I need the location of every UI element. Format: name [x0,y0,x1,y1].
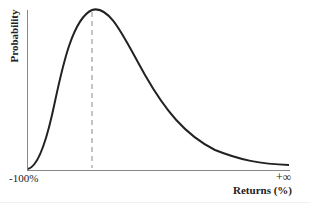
y-axis-label: Probability [8,10,20,63]
distribution-curve [28,9,289,169]
chart-plot [0,0,310,209]
divider [0,202,310,203]
x-tick-max: +∞ [276,170,291,185]
x-tick-min: -100% [9,172,38,184]
x-axis-label: Returns (%) [233,184,292,196]
